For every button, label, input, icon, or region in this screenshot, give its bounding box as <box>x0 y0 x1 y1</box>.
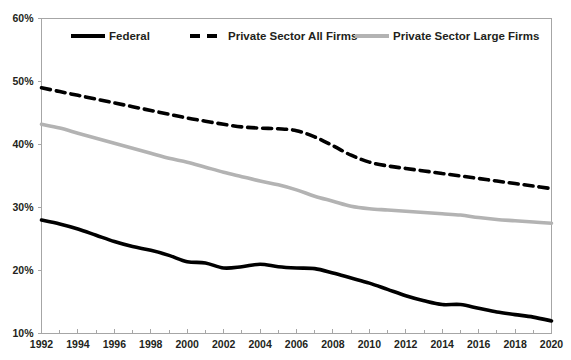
legend-label-private-sector-all-firms: Private Sector All Firms <box>228 30 357 42</box>
x-tick-label: 2020 <box>540 338 564 350</box>
series-line-private-sector-all-firms <box>42 88 552 189</box>
plot-frame <box>42 19 552 334</box>
x-tick-label: 2010 <box>358 338 382 350</box>
x-tick-label: 1996 <box>103 338 127 350</box>
x-tick-label: 2012 <box>394 338 418 350</box>
chart-legend: FederalPrivate Sector All FirmsPrivate S… <box>71 30 539 42</box>
series-line-private-sector-large-firms <box>42 124 552 223</box>
legend-label-federal: Federal <box>109 30 150 42</box>
chart-container: 60%50%40%30%20%10% 199219941996199820002… <box>0 0 571 360</box>
x-tick-label: 2002 <box>212 338 236 350</box>
legend-label-private-sector-large-firms: Private Sector Large Firms <box>393 30 539 42</box>
y-tick-label: 40% <box>12 138 34 150</box>
y-tick-label: 60% <box>12 12 34 24</box>
x-tick-label: 2014 <box>431 338 455 350</box>
x-axis-labels: 1992199419961998200020022004200620082010… <box>30 338 564 350</box>
y-axis-labels: 60%50%40%30%20%10% <box>12 12 34 339</box>
series-line-federal <box>42 220 552 321</box>
x-tick-label: 2004 <box>248 338 272 350</box>
x-tick-label: 2006 <box>285 338 309 350</box>
y-tick-label: 30% <box>12 201 34 213</box>
x-axis-ticks <box>42 329 552 334</box>
x-tick-label: 1998 <box>139 338 163 350</box>
data-series-group <box>42 88 552 321</box>
plot-border <box>42 19 552 334</box>
x-tick-label: 1992 <box>30 338 54 350</box>
x-tick-label: 2008 <box>321 338 345 350</box>
y-tick-label: 20% <box>12 264 34 276</box>
x-tick-label: 1994 <box>66 338 90 350</box>
x-tick-label: 2016 <box>467 338 491 350</box>
y-axis-ticks <box>38 19 42 334</box>
line-chart: 60%50%40%30%20%10% 199219941996199820002… <box>0 0 571 360</box>
y-tick-label: 50% <box>12 75 34 87</box>
x-tick-label: 2018 <box>503 338 527 350</box>
x-tick-label: 2000 <box>176 338 200 350</box>
